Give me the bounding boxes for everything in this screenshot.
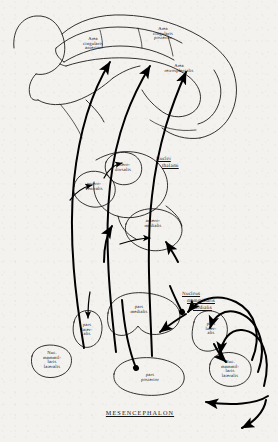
label-antero-dorsalis: antero- dorsalis: [106, 163, 140, 172]
label-pars-medialis: pars medialis: [123, 305, 155, 314]
label-pars-posterior: pars posterior: [132, 373, 168, 382]
label-antero-medialis: antero- medialis: [134, 219, 172, 228]
label-nucleus-mammillaris-medialis-line3: medialis: [193, 306, 233, 311]
neuroanatomy-diagram: Area cingularis anterior Area cingularis…: [0, 0, 278, 442]
label-antero-ventralis: antero- ventralis: [76, 182, 112, 191]
label-pars-lateralis-right: pars later- alis: [197, 322, 225, 336]
label-area-cingularis-anterior: Area cingularis anterior: [71, 37, 115, 51]
label-pars-lateralis-left: pars later- alis: [73, 323, 101, 337]
label-nucleus-mammillaris-medialis-line2: mammillaris: [187, 299, 235, 304]
label-area-cingularis-posterior: Area cingularis posterior: [140, 27, 186, 41]
label-nuclei-thalami-line1: Nuclei: [156, 157, 190, 162]
label-nuclei-thalami-line2: thalami: [162, 164, 196, 169]
label-nuc-mammillaris-lateralis-left: Nuc. mammil- laris lateralis: [33, 351, 71, 370]
label-nucleus-mammillaris-medialis-line1: Nucleus: [182, 292, 226, 297]
label-nuc-mammillaris-lateralis-right: Nuc. mammil- laris lateralis: [211, 360, 249, 379]
label-mesencephalon: MESENCEPHALON: [88, 411, 192, 417]
tracts-mammillary: [88, 286, 268, 428]
label-area-retrosplenialis: Area retrosplenialis: [152, 64, 206, 73]
